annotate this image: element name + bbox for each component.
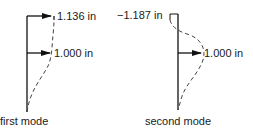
second-mode-shape	[170, 14, 204, 110]
second-mode-mid-label: 1.000 in	[204, 47, 243, 59]
second-mode-caption: second mode	[145, 115, 211, 127]
second-mode-curve	[170, 20, 204, 110]
first-mode-shape	[27, 16, 54, 112]
first-mode-caption: first mode	[0, 115, 48, 127]
first-mode-mid-label: 1.000 in	[54, 47, 93, 59]
first-mode-curve	[27, 16, 54, 112]
second-mode-top-label: −1.187 in	[117, 9, 163, 21]
first-mode-top-label: 1.136 in	[57, 10, 96, 22]
mode-shapes-diagram: 1.136 in 1.000 in first mode −1.187 in 1…	[0, 0, 253, 134]
